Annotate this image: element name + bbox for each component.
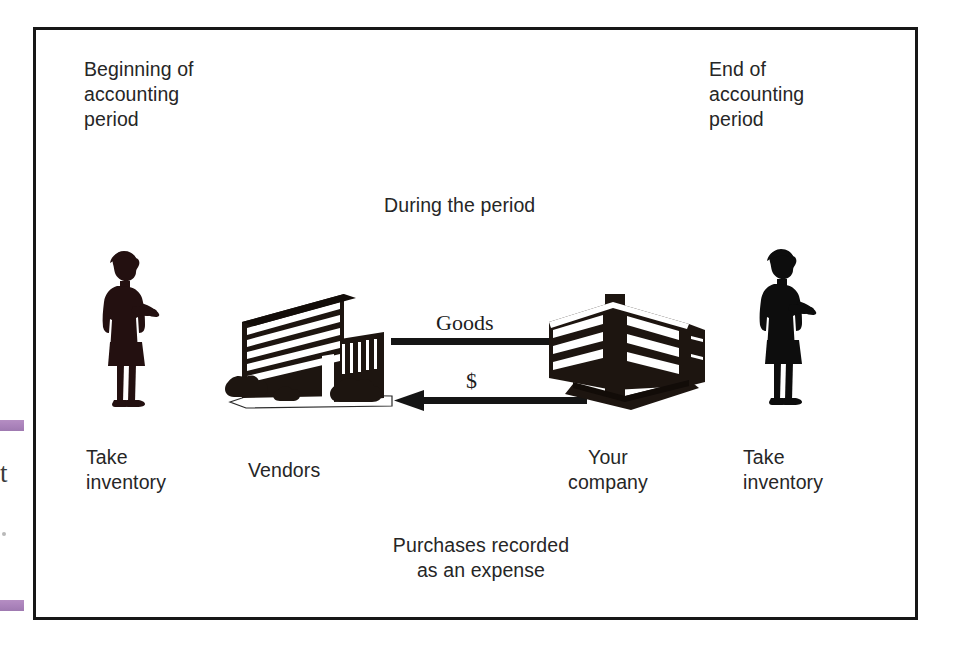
end-of-period-label: End of accounting period	[709, 57, 804, 132]
corporate-building-icon	[539, 282, 714, 414]
during-the-period-label: During the period	[384, 193, 535, 218]
person-with-clipboard-icon	[86, 250, 164, 425]
partial-glyph-left-margin: t	[0, 460, 8, 487]
take-inventory-label-left: Take inventory	[86, 445, 166, 495]
vendors-label: Vendors	[248, 458, 320, 483]
highlighter-mark-lower	[0, 600, 24, 611]
goods-flow-label: Goods	[436, 312, 493, 334]
highlighter-mark-upper	[0, 420, 24, 431]
purchases-recorded-note: Purchases recorded as an expense	[331, 533, 631, 583]
payment-flow-label: $	[466, 370, 477, 392]
person-with-clipboard-icon	[743, 248, 821, 423]
beginning-of-period-label: Beginning of accounting period	[84, 57, 194, 132]
take-inventory-label-right: Take inventory	[743, 445, 823, 495]
figure-frame: Beginning of accounting period End of ac…	[33, 27, 918, 620]
scan-speck	[2, 532, 6, 536]
office-building-icon	[216, 278, 398, 418]
your-company-label: Your company	[528, 445, 688, 495]
